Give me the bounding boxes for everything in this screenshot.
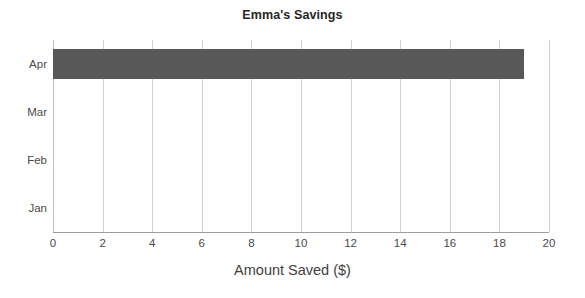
plot-area: [53, 40, 549, 232]
x-tick-label-8: 8: [231, 236, 271, 250]
x-tick-label-20: 20: [529, 236, 569, 250]
x-tick-label-6: 6: [182, 236, 222, 250]
x-tick-label-0: 0: [33, 236, 73, 250]
x-axis-tick-labels: 02468101214161820: [0, 236, 585, 254]
x-axis-title: Amount Saved ($): [0, 262, 585, 278]
x-tick-label-4: 4: [132, 236, 172, 250]
x-tick-label-10: 10: [281, 236, 321, 250]
chart-title: Emma's Savings: [0, 8, 585, 22]
x-tick-label-14: 14: [380, 236, 420, 250]
x-tick-label-12: 12: [331, 236, 371, 250]
gridline-20: [549, 40, 550, 232]
y-tick-label-apr: Apr: [3, 58, 47, 70]
bar-chart: Emma's Savings JanFebMarApr 024681012141…: [0, 0, 585, 298]
x-tick-label-18: 18: [479, 236, 519, 250]
y-tick-label-jan: Jan: [3, 202, 47, 214]
y-tick-label-feb: Feb: [3, 154, 47, 166]
y-tick-label-mar: Mar: [3, 106, 47, 118]
x-tick-label-2: 2: [83, 236, 123, 250]
x-tick-label-16: 16: [430, 236, 470, 250]
bar-apr[interactable]: [53, 49, 524, 79]
x-axis-line: [53, 232, 549, 233]
